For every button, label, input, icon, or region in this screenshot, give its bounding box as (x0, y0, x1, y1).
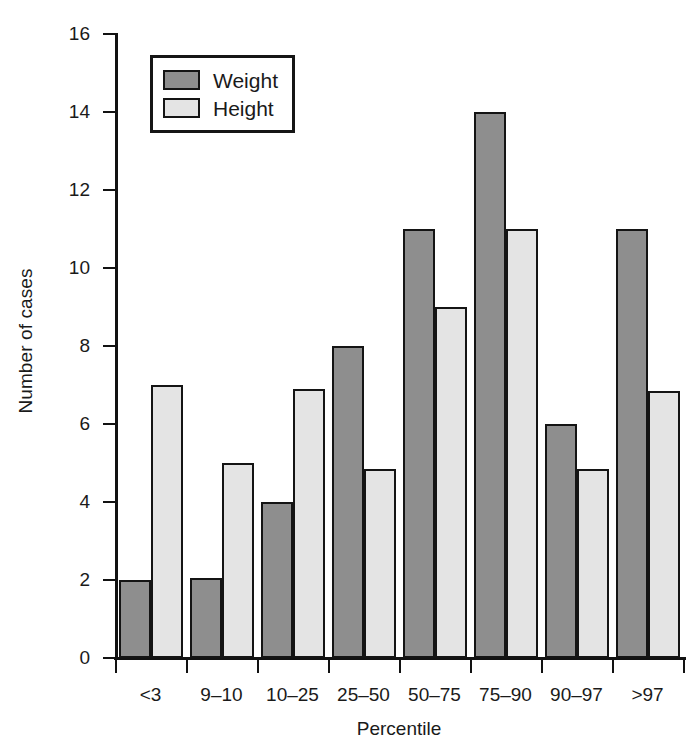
x-tick-label: 75–90 (479, 684, 532, 706)
legend-label-height: Height (213, 98, 274, 119)
bar-height-6 (577, 469, 609, 658)
y-tick-label: 16 (48, 23, 90, 45)
bar-height-4 (435, 307, 467, 658)
y-tick-label: 10 (48, 257, 90, 279)
bar-weight-6 (545, 424, 577, 658)
x-tick-mark (541, 660, 543, 673)
bar-weight-0 (119, 580, 151, 658)
bar-weight-5 (474, 112, 506, 658)
x-tick-mark (612, 660, 614, 673)
legend-item-weight: Weight (163, 66, 278, 94)
x-tick-mark (399, 660, 401, 673)
x-tick-mark (257, 660, 259, 673)
x-tick-mark (470, 660, 472, 673)
bar-height-1 (222, 463, 254, 658)
x-tick-mark (683, 660, 685, 673)
y-tick-label: 4 (48, 491, 90, 513)
y-axis-title: Number of cases (15, 211, 37, 471)
x-axis-title: Percentile (115, 718, 683, 740)
y-tick-label: 6 (48, 413, 90, 435)
y-tick-label: 12 (48, 179, 90, 201)
bar-height-2 (293, 389, 325, 658)
legend-label-weight: Weight (213, 70, 278, 91)
bar-height-3 (364, 469, 396, 658)
x-tick-mark (328, 660, 330, 673)
bar-weight-7 (616, 229, 648, 658)
bar-height-0 (151, 385, 183, 658)
height-swatch-icon (163, 98, 200, 118)
bar-weight-1 (190, 578, 222, 658)
legend-item-height: Height (163, 94, 278, 122)
x-tick-mark (115, 660, 117, 673)
x-tick-label: <3 (140, 684, 162, 706)
y-tick-label: 2 (48, 569, 90, 591)
x-tick-label: 25–50 (337, 684, 390, 706)
x-tick-mark (186, 660, 188, 673)
y-tick-label: 14 (48, 101, 90, 123)
legend: Weight Height (150, 55, 295, 133)
x-tick-label: 90–97 (550, 684, 603, 706)
weight-swatch-icon (163, 70, 200, 90)
bar-weight-4 (403, 229, 435, 658)
x-tick-label: 10–25 (266, 684, 319, 706)
x-tick-label: 50–75 (408, 684, 461, 706)
bar-height-5 (506, 229, 538, 658)
bar-weight-3 (332, 346, 364, 658)
bar-height-7 (648, 391, 680, 658)
y-tick-label: 8 (48, 335, 90, 357)
bar-chart: Number of cases 0246810121416 <39–1010–2… (0, 0, 697, 748)
x-tick-label: >97 (631, 684, 663, 706)
x-tick-label: 9–10 (200, 684, 242, 706)
bar-weight-2 (261, 502, 293, 658)
y-tick-label: 0 (48, 647, 90, 669)
